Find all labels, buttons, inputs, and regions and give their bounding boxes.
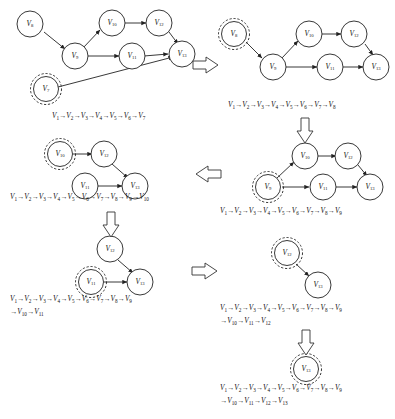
node-v10-highlighted[interactable]: V10: [45, 139, 76, 170]
node-v13-sub: 13: [376, 66, 381, 71]
edge-v8-v9: [44, 32, 65, 49]
node-v13[interactable]: V13: [305, 272, 331, 298]
node-v13-sub: 13: [370, 186, 375, 191]
node-v9[interactable]: V9: [260, 54, 286, 80]
node-v13-highlighted[interactable]: V13: [291, 354, 322, 385]
node-v11[interactable]: V11: [317, 54, 343, 80]
node-v10[interactable]: V10: [296, 21, 322, 47]
panel-3: V9 V10 V11 V12 V13: [252, 146, 392, 208]
flow-arrow-1-to-2: [193, 56, 219, 74]
node-v10-sub: 10: [112, 22, 117, 27]
node-v13[interactable]: V13: [127, 269, 153, 295]
node-v8-highlighted[interactable]: V8: [219, 19, 250, 50]
node-v12-sub: 12: [104, 153, 109, 158]
node-v12[interactable]: V12: [341, 21, 367, 47]
panel-1-sequence: V1→V2→V3→V4→V5→V6→V7: [52, 111, 145, 124]
node-v13-sub: 13: [135, 185, 140, 190]
node-v12-sub: 12: [159, 22, 164, 27]
node-v12-sub: 12: [348, 155, 353, 160]
panel-2-sequence: V1→V2→V3→V4→V5→V6→V7→V8: [228, 100, 336, 113]
node-v13-sub: 13: [182, 53, 187, 58]
node-v13[interactable]: V13: [357, 174, 383, 200]
node-v11-highlighted[interactable]: V11: [76, 267, 107, 298]
flow-arrow-3-to-4: [196, 165, 222, 183]
edge-v8-v9: [246, 42, 262, 58]
node-v12[interactable]: V12: [91, 141, 117, 167]
node-v12-sub: 12: [354, 33, 359, 38]
node-v13-sub: 13: [306, 368, 311, 373]
panel-7-sequence: V1→V2→V3→V4→V5→V6→V7→V8→V9→V10→V11→V12→V…: [220, 383, 342, 409]
edge-v9-v10: [83, 30, 100, 48]
node-v7-highlighted[interactable]: V7: [31, 74, 62, 105]
node-v12-sub: 12: [110, 248, 115, 253]
edge-v12-v13: [112, 164, 128, 178]
edge-v9-v10: [282, 41, 298, 58]
node-v11[interactable]: V11: [310, 174, 336, 200]
node-v12-highlighted[interactable]: V12: [272, 238, 303, 269]
node-v10[interactable]: V10: [99, 10, 125, 36]
node-v11-sub: 11: [323, 186, 328, 191]
node-v11-sub: 11: [91, 281, 96, 286]
edge-v11-v13: [144, 54, 168, 56]
node-v9-highlighted[interactable]: V9: [253, 172, 284, 203]
node-v13-sub: 13: [140, 281, 145, 286]
node-v11-sub: 11: [132, 55, 137, 60]
flow-arrow-4-to-5: [102, 212, 120, 238]
node-v12[interactable]: V12: [335, 143, 361, 169]
node-v10-sub: 10: [309, 33, 314, 38]
panel-1: V8 V9 V10 V11 V12 V13 V7: [8, 4, 188, 104]
node-v11-sub: 11: [85, 185, 90, 190]
panel-3-sequence: V1→V2→V3→V4→V5→V6→V7→V8→V9: [220, 206, 342, 219]
edge-v12-v13: [296, 264, 309, 276]
panel-6-sequence: V1→V2→V3→V4→V5→V6→V7→V8→V9→V10→V11→V12: [220, 303, 342, 329]
panel-6: V12 V13: [268, 240, 348, 302]
panel-5-sequence: V1→V2→V3→V4→V5→V6→V7→V8→V9→V10→V11: [10, 294, 132, 320]
panel-5: V12 V11 V13: [72, 236, 167, 298]
edge-v9-v10: [277, 162, 294, 178]
edge-v12-v13: [365, 44, 373, 55]
node-v12-sub: 12: [287, 252, 292, 257]
node-v12[interactable]: V12: [97, 236, 123, 262]
node-v10-sub: 10: [305, 155, 310, 160]
flow-arrow-2-to-3: [296, 118, 314, 144]
node-v13[interactable]: V13: [169, 41, 195, 67]
node-v12[interactable]: V12: [146, 10, 172, 36]
node-v10-sub: 10: [60, 153, 65, 158]
flow-arrow-5-to-6: [192, 262, 218, 280]
node-v13[interactable]: V13: [363, 54, 389, 80]
panel-2: V8 V9 V10 V11 V12 V13: [222, 16, 387, 96]
flow-arrow-6-to-7: [297, 330, 315, 356]
node-v10[interactable]: V10: [292, 143, 318, 169]
panel-6-edges: [296, 264, 309, 276]
panel-4-sequence: V1→V2→V3→V4→V5→V6→V7→V8→V9→V10: [10, 192, 149, 205]
node-v11[interactable]: V11: [119, 43, 145, 69]
edge-v12-v13: [118, 260, 133, 273]
node-v13-sub: 13: [318, 284, 323, 289]
node-v9[interactable]: V9: [62, 43, 88, 69]
node-v11-sub: 11: [330, 66, 335, 71]
node-v8[interactable]: V8: [17, 11, 43, 37]
